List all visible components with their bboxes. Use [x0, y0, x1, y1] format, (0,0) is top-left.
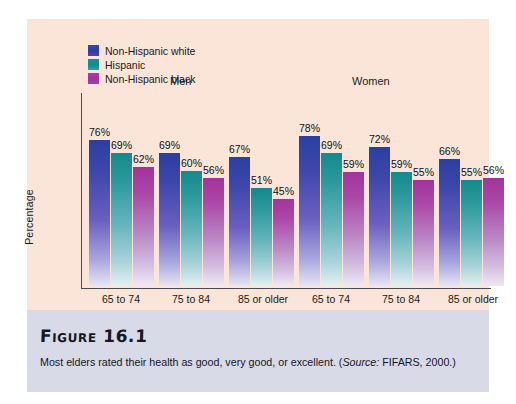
bar-hispanic: 59%	[391, 172, 412, 286]
bar-value-label: 66%	[439, 145, 460, 157]
bar-group: 76% 69% 62%	[89, 93, 157, 286]
x-tick-label: 75 to 84	[363, 293, 439, 305]
bar-value-label: 55%	[461, 166, 482, 178]
legend-swatch-icon	[88, 73, 99, 84]
bar-non-hispanic-white: 78%	[299, 136, 320, 286]
legend-item-non-hispanic-white: Non-Hispanic white	[88, 44, 195, 57]
caption-panel	[27, 310, 489, 392]
chart-panel: Non-Hispanic white Hispanic Non-Hispanic…	[27, 19, 489, 310]
figure-number-label: Figure 16.1	[40, 326, 148, 346]
bar-group: 66% 55% 56%	[439, 93, 507, 286]
bar-hispanic: 55%	[461, 180, 482, 286]
bar-group: 67% 51% 45%	[229, 93, 297, 286]
bar-non-hispanic-black: 55%	[413, 180, 434, 286]
bar-non-hispanic-black: 56%	[483, 178, 504, 286]
bar-non-hispanic-white: 76%	[89, 140, 110, 286]
bar-value-label: 69%	[321, 139, 342, 151]
x-tick-label: 85 or older	[431, 293, 515, 305]
figure-root: Non-Hispanic white Hispanic Non-Hispanic…	[0, 0, 516, 404]
figure-caption-source-value: FIFARS, 2000.)	[379, 356, 456, 368]
legend-swatch-icon	[88, 59, 99, 70]
x-tick-label: 75 to 84	[153, 293, 229, 305]
bar-non-hispanic-white: 67%	[229, 157, 250, 286]
bar-group: 72% 59% 55%	[369, 93, 437, 286]
bar-value-label: 69%	[159, 139, 180, 151]
bar-group: 78% 69% 59%	[299, 93, 367, 286]
bar-non-hispanic-black: 62%	[133, 167, 154, 286]
x-axis-line	[81, 288, 491, 289]
bar-non-hispanic-black: 59%	[343, 172, 364, 286]
section-heading-women: Women	[352, 75, 390, 87]
bar-value-label: 55%	[413, 166, 434, 178]
legend-item-hispanic: Hispanic	[88, 58, 195, 71]
bar-group: 69% 60% 56%	[159, 93, 227, 286]
bar-hispanic: 60%	[181, 171, 202, 287]
bar-non-hispanic-white: 72%	[369, 147, 390, 286]
bar-hispanic: 51%	[251, 188, 272, 286]
bar-value-label: 60%	[181, 157, 202, 169]
bar-value-label: 56%	[483, 164, 504, 176]
x-tick-label: 65 to 74	[293, 293, 369, 305]
bar-value-label: 62%	[133, 153, 154, 165]
legend-swatch-icon	[88, 45, 99, 56]
bar-non-hispanic-white: 69%	[159, 153, 180, 286]
bar-value-label: 59%	[391, 158, 412, 170]
legend-label: Non-Hispanic white	[105, 45, 195, 57]
figure-caption: Most elders rated their health as good, …	[40, 355, 480, 369]
bar-value-label: 67%	[229, 143, 250, 155]
plot-area: 76% 69% 62% 69%	[81, 93, 488, 286]
figure-caption-text: Most elders rated their health as good, …	[40, 356, 342, 368]
bar-value-label: 51%	[251, 174, 272, 186]
bar-value-label: 69%	[111, 139, 132, 151]
bar-hispanic: 69%	[321, 153, 342, 286]
bar-value-label: 78%	[299, 122, 320, 134]
figure-caption-source-prefix: Source:	[342, 356, 379, 368]
legend-label: Hispanic	[105, 59, 145, 71]
bar-value-label: 72%	[369, 133, 390, 145]
bar-value-label: 76%	[89, 126, 110, 138]
bar-non-hispanic-black: 45%	[273, 199, 294, 286]
bar-value-label: 59%	[343, 158, 364, 170]
bar-non-hispanic-white: 66%	[439, 159, 460, 286]
section-heading-men: Men	[170, 75, 191, 87]
y-axis-title: Percentage	[23, 167, 35, 267]
bar-value-label: 56%	[203, 164, 224, 176]
bar-value-label: 45%	[273, 185, 294, 197]
bar-non-hispanic-black: 56%	[203, 178, 224, 286]
x-tick-label: 65 to 74	[83, 293, 159, 305]
bar-hispanic: 69%	[111, 153, 132, 286]
